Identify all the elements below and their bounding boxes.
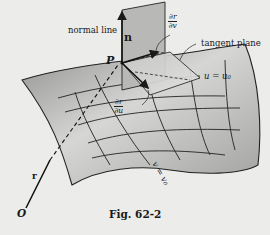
label-normal-line: normal line — [68, 26, 117, 35]
label-normal-vector: n — [124, 32, 132, 43]
point-p — [120, 61, 123, 64]
partial-r-v-denominator: ∂v — [169, 22, 177, 30]
label-origin: O — [17, 208, 26, 219]
partial-r-u-denominator: ∂u — [114, 107, 123, 115]
label-point-p: P — [106, 55, 114, 66]
surface-diagram — [0, 0, 270, 235]
position-vector-r — [26, 160, 50, 208]
figure-caption: Fig. 62-2 — [109, 209, 161, 220]
label-partial-r-v: ∂r ∂v — [168, 13, 177, 29]
label-tangent-plane: tangent plane — [201, 39, 261, 48]
label-partial-r-u: ∂r ∂u — [114, 98, 123, 114]
label-position-vector: r — [32, 172, 37, 181]
label-curve-u: u = u₀ — [204, 72, 231, 81]
